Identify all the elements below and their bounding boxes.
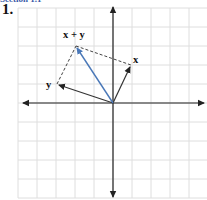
label-x-plus-y: x + y <box>63 29 85 40</box>
label-y: y <box>46 79 52 90</box>
label-x: x <box>133 54 139 65</box>
vector-diagram: x y x + y <box>0 0 207 200</box>
vector-x-plus-y <box>77 48 113 103</box>
vector-y <box>59 85 113 103</box>
vector-x <box>113 67 130 103</box>
